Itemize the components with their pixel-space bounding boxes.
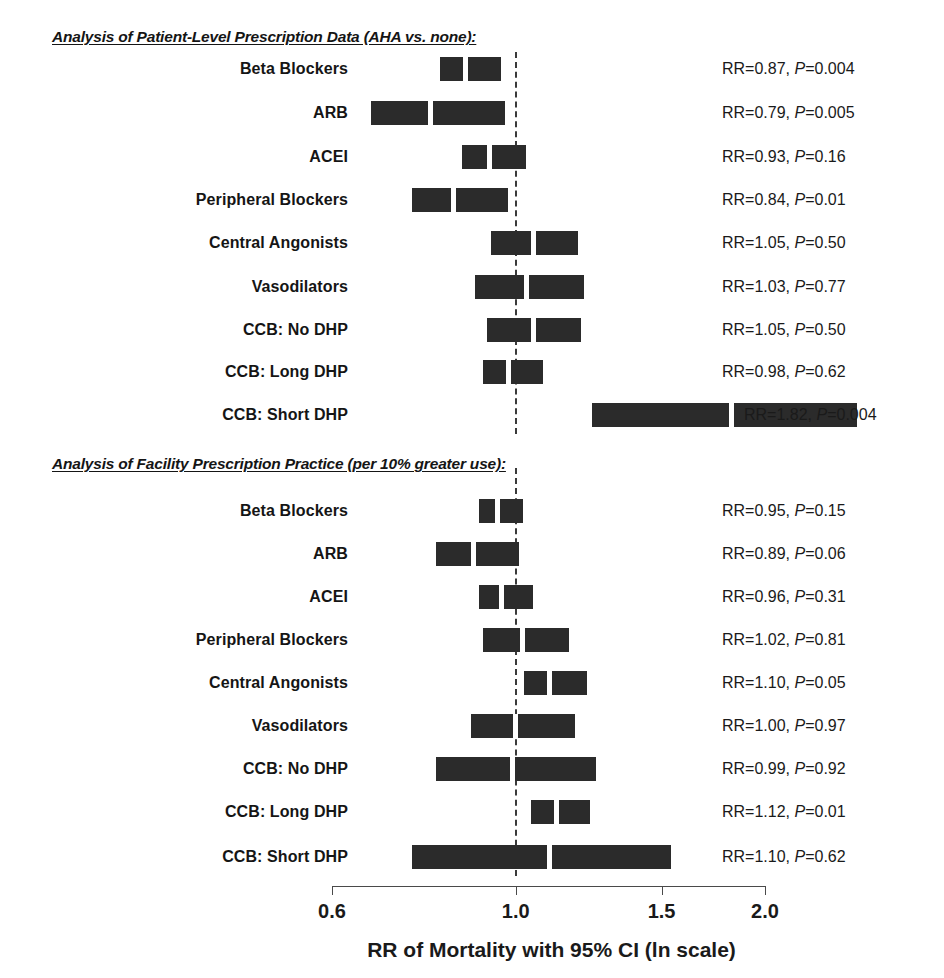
- row-label: ARB: [60, 104, 348, 122]
- axis-tick: [516, 886, 517, 895]
- axis-tick-label: 1.0: [502, 900, 530, 923]
- point-estimate-marker: [554, 800, 559, 824]
- stat-label: RR=1.05, P=0.50: [722, 321, 846, 339]
- row-label: CCB: Short DHP: [60, 848, 348, 866]
- point-estimate-marker: [463, 57, 468, 81]
- confidence-interval-bar: [519, 671, 587, 695]
- stat-label: RR=1.02, P=0.81: [722, 631, 846, 649]
- point-estimate-marker: [531, 231, 536, 255]
- axis-end-cap: [765, 886, 766, 895]
- row-label: ACEI: [60, 588, 348, 606]
- stat-label: RR=1.00, P=0.97: [722, 717, 846, 735]
- axis-tick-label: 2.0: [751, 900, 779, 923]
- point-estimate-marker: [499, 585, 504, 609]
- point-estimate-marker: [428, 101, 433, 125]
- stat-label: RR=0.89, P=0.06: [722, 545, 846, 563]
- point-estimate-marker: [547, 845, 552, 869]
- row-label: CCB: No DHP: [60, 321, 348, 339]
- stat-label: RR=0.79, P=0.005: [722, 104, 855, 122]
- stat-label: RR=1.82, P=0.004: [744, 406, 877, 424]
- stat-label: RR=0.98, P=0.62: [722, 363, 846, 381]
- point-estimate-marker: [451, 188, 456, 212]
- x-axis-title: RR of Mortality with 95% CI (ln scale): [367, 938, 736, 962]
- row-label: Central Angonists: [60, 234, 348, 252]
- axis-end-cap: [332, 886, 333, 895]
- point-estimate-marker: [487, 145, 492, 169]
- point-estimate-marker: [729, 403, 734, 427]
- stat-label: RR=0.95, P=0.15: [722, 502, 846, 520]
- point-estimate-marker: [471, 542, 476, 566]
- point-estimate-marker: [506, 360, 511, 384]
- confidence-interval-bar: [466, 714, 576, 738]
- point-estimate-marker: [547, 671, 552, 695]
- stat-label: RR=0.93, P=0.16: [722, 148, 846, 166]
- row-label: Central Angonists: [60, 674, 348, 692]
- stat-label: RR=1.12, P=0.01: [722, 803, 846, 821]
- row-label: CCB: No DHP: [60, 760, 348, 778]
- row-label: Vasodilators: [60, 278, 348, 296]
- point-estimate-marker: [531, 318, 536, 342]
- row-label: Peripheral Blockers: [60, 191, 348, 209]
- row-label: CCB: Long DHP: [60, 803, 348, 821]
- point-estimate-marker: [513, 714, 518, 738]
- axis-tick-label: 1.5: [648, 900, 676, 923]
- row-label: Peripheral Blockers: [60, 631, 348, 649]
- row-label: ARB: [60, 545, 348, 563]
- point-estimate-marker: [510, 757, 515, 781]
- stat-label: RR=0.84, P=0.01: [722, 191, 846, 209]
- axis-tick: [662, 886, 663, 895]
- stat-label: RR=0.99, P=0.92: [722, 760, 846, 778]
- confidence-interval-bar: [407, 188, 508, 212]
- point-estimate-marker: [495, 499, 500, 523]
- row-label: Beta Blockers: [60, 502, 348, 520]
- x-axis-line: [332, 886, 765, 887]
- confidence-interval-bar: [435, 57, 501, 81]
- section-header-2: Analysis of Facility Prescription Practi…: [52, 455, 506, 473]
- stat-label: RR=0.87, P=0.004: [722, 60, 855, 78]
- stat-label: RR=1.03, P=0.77: [722, 278, 846, 296]
- point-estimate-marker: [524, 275, 529, 299]
- row-label: CCB: Short DHP: [60, 406, 348, 424]
- confidence-interval-bar: [407, 845, 671, 869]
- forest-plot-figure: Analysis of Patient-Level Prescription D…: [0, 0, 944, 978]
- row-label: Beta Blockers: [60, 60, 348, 78]
- axis-tick-label: 0.6: [318, 900, 346, 923]
- stat-label: RR=1.10, P=0.62: [722, 848, 846, 866]
- confidence-interval-bar: [366, 101, 504, 125]
- row-label: CCB: Long DHP: [60, 363, 348, 381]
- null-reference-line: [515, 468, 517, 876]
- stat-label: RR=0.96, P=0.31: [722, 588, 846, 606]
- row-label: ACEI: [60, 148, 348, 166]
- row-label: Vasodilators: [60, 717, 348, 735]
- point-estimate-marker: [520, 628, 525, 652]
- stat-label: RR=1.05, P=0.50: [722, 234, 846, 252]
- stat-label: RR=1.10, P=0.05: [722, 674, 846, 692]
- section-header-1: Analysis of Patient-Level Prescription D…: [52, 28, 476, 46]
